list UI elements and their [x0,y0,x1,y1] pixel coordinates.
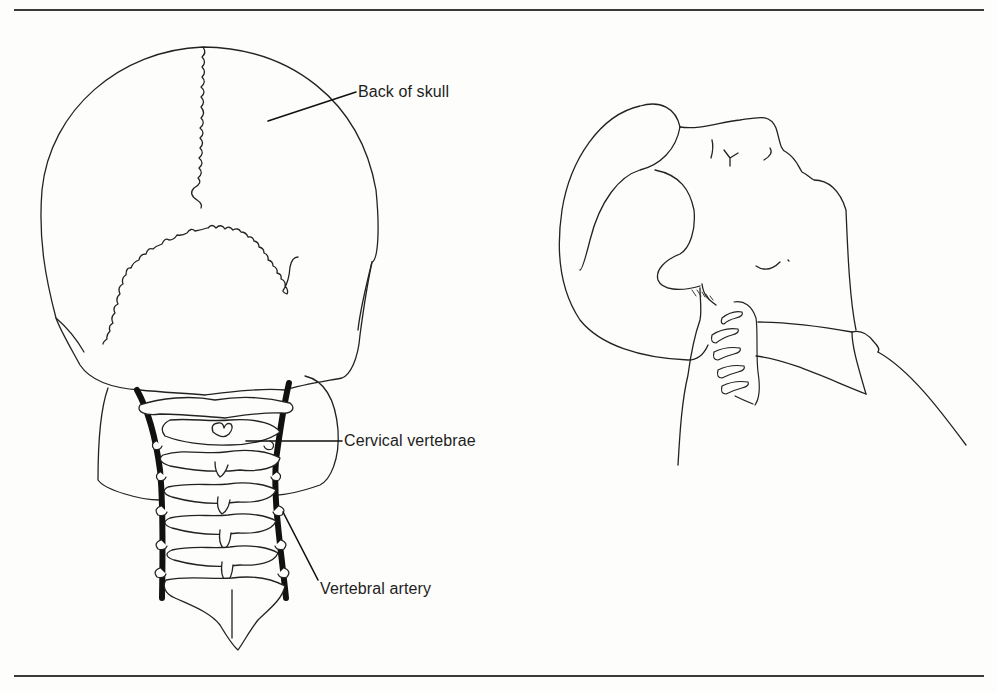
head-tilted-figure [559,104,966,465]
label-leaders [246,92,356,580]
label-vertebral-artery: Vertebral artery [320,580,431,598]
anatomy-illustration [0,0,997,693]
label-cervical-vertebrae: Cervical vertebrae [344,432,476,450]
bottom-rule [14,675,984,677]
label-back-of-skull: Back of skull [358,83,449,101]
